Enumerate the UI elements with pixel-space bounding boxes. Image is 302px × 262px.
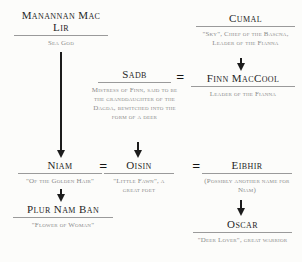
marriage-equals-sadb-finn: = <box>171 72 189 84</box>
descent-arrow-eibhir-to-oscar <box>236 200 246 216</box>
arrow-down-icon <box>57 194 65 202</box>
family-tree-diagram: Manannan Mac Lir Sea God Cumal "Sky", Ch… <box>0 0 302 262</box>
arrow-down-icon <box>237 63 245 71</box>
descent-arrow-sadb-to-oisin <box>133 142 143 158</box>
person-caption-plur-nam-ban: "Flower of Woman" <box>13 221 113 230</box>
person-caption-manannan-mac-lir: Sea God <box>14 39 108 48</box>
person-name-sadb: Sadb <box>98 68 171 83</box>
node-eibhir: Eibhir (Possibly another name for Niam) <box>202 159 292 195</box>
node-sadb: Sadb Mistress of Finn, said to be the gr… <box>98 68 171 122</box>
person-name-cumal: Cumal <box>196 12 295 27</box>
marriage-equals-oisin-eibhir: = <box>187 161 205 173</box>
person-caption-oisin: "Little Fawn", a great poet <box>104 177 174 195</box>
node-oscar: Oscar "Deer Lover", great warrior <box>193 218 292 245</box>
node-finn-maccool: Finn MacCool Leader of the Fianna <box>191 72 295 99</box>
node-niam: Niam "Of the Golden Hair" <box>18 159 102 186</box>
arrow-down-icon <box>134 150 142 158</box>
person-caption-cumal: "Sky", Chief of the Bascna, Leader of th… <box>196 30 295 48</box>
person-name-plur-nam-ban: Plur Nam Ban <box>13 203 113 218</box>
person-name-eibhir: Eibhir <box>202 159 292 174</box>
person-name-niam: Niam <box>18 159 102 174</box>
person-name-finn-maccool: Finn MacCool <box>191 72 295 87</box>
descent-arrow-niam-to-plur <box>56 189 66 202</box>
person-name-oisin: Oisin <box>104 159 174 174</box>
node-cumal: Cumal "Sky", Chief of the Bascna, Leader… <box>196 12 295 48</box>
descent-arrow-cumal-to-finn <box>236 58 246 71</box>
arrow-shaft <box>60 52 62 153</box>
node-oisin: Oisin "Little Fawn", a great poet <box>104 159 174 195</box>
node-plur-nam-ban: Plur Nam Ban "Flower of Woman" <box>13 203 113 230</box>
person-name-manannan-mac-lir: Manannan Mac Lir <box>14 9 108 36</box>
node-manannan-mac-lir: Manannan Mac Lir Sea God <box>14 9 108 48</box>
person-name-oscar: Oscar <box>193 218 292 233</box>
person-caption-niam: "Of the Golden Hair" <box>18 177 102 186</box>
marriage-equals-niam-oisin: = <box>94 161 112 173</box>
person-caption-finn-maccool: Leader of the Fianna <box>191 90 295 99</box>
person-caption-eibhir: (Possibly another name for Niam) <box>202 177 292 195</box>
person-caption-sadb: Mistress of Finn, said to be the grandda… <box>90 86 179 122</box>
person-caption-oscar: "Deer Lover", great warrior <box>193 236 292 245</box>
arrow-down-icon <box>237 208 245 216</box>
descent-arrow-manannan-to-niam <box>56 52 66 158</box>
arrow-down-icon <box>57 150 65 158</box>
